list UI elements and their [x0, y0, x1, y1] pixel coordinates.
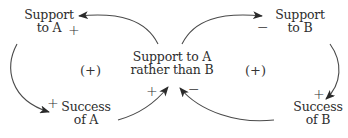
- loop-label-right: (+): [245, 64, 266, 78]
- polarity-success-a: +: [47, 96, 59, 110]
- polarity-success-b: +: [313, 87, 325, 101]
- polarity-center-from-b: −: [188, 82, 200, 96]
- arrow-center-to-support-b: [182, 15, 262, 44]
- arrow-success-a-to-center: [118, 87, 168, 120]
- causal-loop-diagram: Support to A Support to B Support to A r…: [0, 0, 348, 138]
- node-support-to-b: Support to B: [270, 8, 330, 34]
- polarity-support-a: +: [68, 23, 80, 37]
- arrow-center-to-support-a: [79, 15, 158, 44]
- node-success-of-b: Success of B: [290, 100, 346, 126]
- node-support-a-rather-than-b: Support to A rather than B: [126, 50, 218, 76]
- arrow-support-a-to-success-a: [11, 44, 49, 112]
- node-success-of-a: Success of A: [58, 100, 114, 126]
- loop-label-left: (+): [80, 64, 101, 78]
- node-success-of-b-line2: of B: [290, 113, 346, 126]
- polarity-support-b: −: [257, 20, 269, 34]
- node-support-to-b-line2: to B: [270, 21, 330, 34]
- node-success-of-a-line2: of A: [58, 113, 114, 126]
- node-center-line2: rather than B: [126, 63, 218, 76]
- arrow-support-b-to-success-b: [326, 44, 339, 99]
- polarity-center-from-a: +: [146, 84, 158, 98]
